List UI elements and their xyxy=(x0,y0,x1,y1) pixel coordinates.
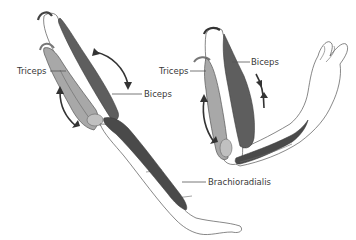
flexed-biceps-label: Biceps xyxy=(251,57,279,67)
flexed-triceps-label: Triceps xyxy=(158,66,189,76)
extended-triceps-label: Triceps xyxy=(16,66,47,76)
flexed-elbow-joint xyxy=(220,139,232,157)
flexed-arm-panel: Triceps Biceps xyxy=(158,28,348,166)
arm-muscle-diagram: Triceps Biceps Brachioradialis Triceps xyxy=(0,0,356,240)
extended-biceps-arrowhead-bottom xyxy=(124,82,132,90)
flexed-biceps-arrowhead-bottom xyxy=(260,92,268,98)
brachioradialis-label: Brachioradialis xyxy=(208,177,272,187)
flexed-biceps-arrowhead-top xyxy=(256,80,262,88)
extended-biceps-label: Biceps xyxy=(144,89,172,99)
flexed-biceps-arrow-icon xyxy=(256,74,264,108)
extended-brachioradialis-muscle xyxy=(104,117,187,210)
